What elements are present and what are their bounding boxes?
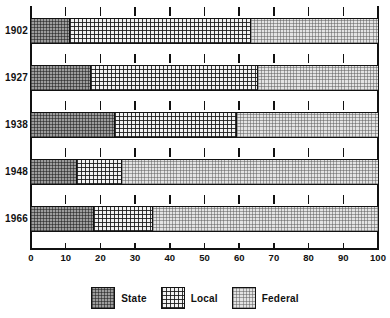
tick-mark: [100, 195, 102, 204]
tick-mark: [238, 195, 240, 204]
tick-mark: [273, 101, 275, 110]
category-label-1966: 1966: [0, 213, 28, 224]
tick-mark: [100, 148, 102, 157]
bar-segment-state: [31, 113, 114, 137]
legend-item-local: Local: [161, 287, 218, 309]
tick-mark: [169, 101, 171, 110]
x-tick-label: 90: [338, 252, 349, 263]
category-label-1938: 1938: [0, 119, 28, 130]
x-tick-label: 30: [130, 252, 141, 263]
tick-mark: [134, 7, 136, 16]
x-tick-label: 80: [303, 252, 314, 263]
tick-mark: [204, 148, 206, 157]
axis-tick-mark: [204, 243, 206, 249]
bar-segment-federal: [250, 19, 378, 43]
bar-segment-local: [114, 113, 235, 137]
x-tick-label: 60: [234, 252, 245, 263]
tick-mark: [308, 101, 310, 110]
chart-legend: State Local Federal: [0, 283, 390, 313]
bar-segment-state: [31, 160, 76, 184]
bar-row: [31, 159, 378, 185]
tick-band: [31, 54, 378, 63]
category-label-1902: 1902: [0, 25, 28, 36]
tick-mark: [204, 101, 206, 110]
bar-segment-local: [69, 19, 249, 43]
category-label-1948: 1948: [0, 166, 28, 177]
x-tick-label: 70: [269, 252, 280, 263]
tick-mark: [238, 7, 240, 16]
axis-tick-mark: [343, 243, 345, 249]
tick-mark: [238, 54, 240, 63]
tick-mark: [273, 54, 275, 63]
tick-mark: [134, 54, 136, 63]
tick-mark: [343, 148, 345, 157]
tick-mark: [100, 54, 102, 63]
legend-swatch-local-icon: [161, 287, 185, 309]
tick-mark: [65, 195, 67, 204]
tick-mark: [204, 195, 206, 204]
tick-mark: [65, 101, 67, 110]
bar-segment-state: [31, 207, 93, 231]
bar-segment-federal: [152, 207, 378, 231]
category-label-1927: 1927: [0, 72, 28, 83]
axis-tick-mark: [308, 243, 310, 249]
legend-label-state: State: [121, 293, 146, 304]
tick-mark: [238, 101, 240, 110]
bar-segment-federal: [121, 160, 378, 184]
tick-mark: [100, 7, 102, 16]
bar-row: [31, 18, 378, 44]
tick-mark: [273, 148, 275, 157]
bar-segment-local: [93, 207, 152, 231]
axis-tick-mark: [238, 243, 240, 249]
x-tick-label: 50: [199, 252, 210, 263]
legend-item-state: State: [91, 287, 146, 309]
tick-mark: [169, 54, 171, 63]
tick-mark: [169, 7, 171, 16]
tick-mark: [343, 101, 345, 110]
tick-mark: [308, 148, 310, 157]
x-tick-label: 40: [165, 252, 176, 263]
tick-mark: [169, 195, 171, 204]
tick-band: [31, 148, 378, 157]
tick-mark: [308, 7, 310, 16]
tick-mark: [343, 54, 345, 63]
legend-item-federal: Federal: [232, 287, 299, 309]
tick-mark: [169, 148, 171, 157]
legend-swatch-state-icon: [91, 287, 115, 309]
bar-segment-federal: [236, 113, 378, 137]
tick-mark: [343, 195, 345, 204]
stacked-bar-chart: 19021927193819481966 0102030405060708090…: [0, 0, 390, 318]
bar-segment-federal: [257, 66, 378, 90]
tick-mark: [204, 54, 206, 63]
bar-segment-local: [76, 160, 121, 184]
x-tick-label: 0: [28, 252, 33, 263]
tick-mark: [134, 101, 136, 110]
tick-mark: [65, 54, 67, 63]
tick-mark: [273, 7, 275, 16]
tick-mark: [100, 101, 102, 110]
tick-band: [31, 101, 378, 110]
x-tick-label: 10: [60, 252, 71, 263]
tick-mark: [65, 148, 67, 157]
x-tick-label: 100: [370, 252, 386, 263]
legend-label-local: Local: [191, 293, 218, 304]
axis-tick-mark: [169, 243, 171, 249]
tick-mark: [308, 195, 310, 204]
bar-row: [31, 206, 378, 232]
bar-segment-state: [31, 66, 90, 90]
axis-tick-mark: [65, 243, 67, 249]
axis-tick-mark: [134, 243, 136, 249]
bar-row: [31, 112, 378, 138]
tick-mark: [134, 195, 136, 204]
tick-band: [31, 195, 378, 204]
tick-band: [31, 7, 378, 16]
tick-mark: [204, 7, 206, 16]
tick-mark: [273, 195, 275, 204]
legend-swatch-federal-icon: [232, 287, 256, 309]
tick-mark: [65, 7, 67, 16]
tick-mark: [134, 148, 136, 157]
x-tick-label: 20: [95, 252, 106, 263]
axis-tick-mark: [273, 243, 275, 249]
tick-mark: [308, 54, 310, 63]
legend-label-federal: Federal: [262, 293, 299, 304]
